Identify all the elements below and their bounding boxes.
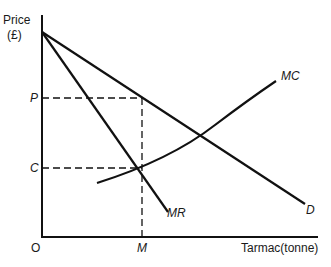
quantity-label: M xyxy=(137,241,147,255)
price-label: P xyxy=(30,91,38,105)
marginal-cost-label: MC xyxy=(281,69,300,83)
demand-curve xyxy=(42,32,305,204)
y-axis-unit-label: (£) xyxy=(7,28,22,42)
y-axis-label: Price xyxy=(3,13,31,27)
economics-diagram: Price (£) P C O M Tarmac(tonne) D MR MC xyxy=(0,0,331,267)
cost-label: C xyxy=(30,161,39,175)
marginal-revenue-curve xyxy=(42,32,168,212)
origin-label: O xyxy=(31,241,40,255)
marginal-revenue-label: MR xyxy=(167,206,186,220)
demand-label: D xyxy=(306,203,315,217)
x-axis-label: Tarmac(tonne) xyxy=(241,241,318,255)
